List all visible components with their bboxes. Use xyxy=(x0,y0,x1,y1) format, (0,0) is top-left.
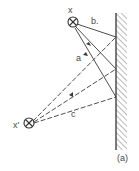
ray-c-label: c xyxy=(71,109,76,119)
source-label: x xyxy=(68,5,73,15)
mirror-wall xyxy=(116,13,127,150)
image-label: x' xyxy=(13,120,20,130)
incident-rays xyxy=(75,24,116,97)
image-circled-cross-icon xyxy=(24,118,34,128)
ray-a-label: a xyxy=(76,53,81,63)
reflection-diagram: x x' b. a c (a) xyxy=(0,0,139,171)
figure-caption: (a) xyxy=(117,153,128,163)
ray-b-label: b. xyxy=(91,16,99,26)
source-circled-cross-icon xyxy=(68,17,78,27)
